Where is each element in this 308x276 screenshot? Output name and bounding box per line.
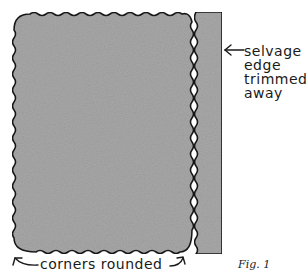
selvage-label-line1: selvage — [244, 44, 307, 58]
figure-caption: Fig. 1 — [238, 258, 270, 271]
selvage-label-line3: trimmed — [244, 72, 307, 86]
fabric-illustration — [0, 0, 308, 276]
selvage-label-line2: edge — [244, 58, 307, 72]
selvage-arrow-icon — [225, 45, 244, 55]
selvage-label-line4: away — [244, 86, 307, 100]
corners-label: corners rounded — [40, 256, 162, 272]
fabric-piece — [13, 13, 194, 254]
selvage-label: selvage edge trimmed away — [244, 44, 307, 100]
corner-arrow-right-icon — [170, 257, 185, 266]
selvage-strip — [195, 12, 223, 254]
corner-arrow-left-icon — [13, 258, 38, 265]
